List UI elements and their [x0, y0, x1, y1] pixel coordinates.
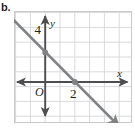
- x-axis-name-label: x: [116, 67, 122, 79]
- y-axis-tick-label-4: 4: [35, 22, 42, 37]
- origin-label: O: [35, 85, 44, 99]
- x-intercept-point: [72, 79, 78, 85]
- graph-figure: b.: [0, 0, 135, 128]
- x-axis-tick-label-2: 2: [70, 86, 77, 101]
- part-label: b.: [1, 2, 10, 13]
- y-axis-name-label: y: [49, 17, 55, 29]
- coordinate-plane-svg: 4 y O 2 x: [14, 11, 132, 123]
- coordinate-plane: 4 y O 2 x: [14, 11, 132, 123]
- y-intercept-point: [42, 50, 48, 56]
